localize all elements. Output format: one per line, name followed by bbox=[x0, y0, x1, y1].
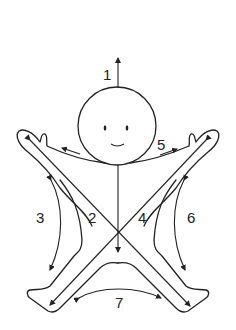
label-6: 6 bbox=[187, 209, 195, 226]
diagonal-right-to-left bbox=[50, 140, 206, 305]
stick-figure-diagram: 1 5 3 2 4 6 7 bbox=[0, 0, 236, 330]
left-body-contour bbox=[27, 180, 118, 312]
label-4: 4 bbox=[138, 209, 146, 226]
arc-6 bbox=[174, 180, 185, 270]
right-eye bbox=[126, 125, 129, 131]
head bbox=[78, 87, 156, 165]
arc-3 bbox=[50, 180, 61, 270]
label-3: 3 bbox=[36, 209, 44, 226]
label-5: 5 bbox=[157, 136, 165, 153]
label-7: 7 bbox=[115, 294, 123, 311]
label-1: 1 bbox=[103, 66, 111, 83]
left-eye bbox=[104, 125, 107, 131]
mouth bbox=[111, 144, 124, 146]
label-2: 2 bbox=[88, 209, 96, 226]
